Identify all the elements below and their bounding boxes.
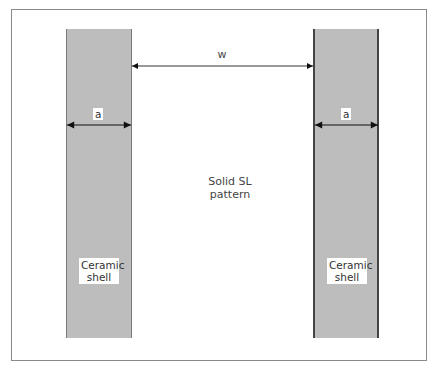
left-ceramic-shell-label: Ceramic shell [79,258,119,284]
left-shell-label-line1: Ceramic [81,259,117,271]
w-dimension-label: w [212,48,232,61]
center-label-line1: Solid SL [190,175,270,188]
right-ceramic-shell-label: Ceramic shell [327,258,367,284]
center-label-line2: pattern [190,188,270,201]
right-shell-label-line2: shell [329,271,365,283]
right-shell-label-line1: Ceramic [329,259,365,271]
left-shell-label-line2: shell [81,271,117,283]
right-a-dimension-label: a [341,108,351,120]
solid-sl-pattern-label: Solid SL pattern [190,175,270,201]
left-a-dimension-label: a [93,108,103,120]
